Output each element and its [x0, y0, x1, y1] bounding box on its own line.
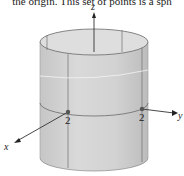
x-intercept-label: 2 [65, 114, 71, 126]
x-axis-arrow-icon [14, 138, 21, 143]
cylinder-diagram: z x y 2 2 [0, 0, 184, 176]
x-axis-label: x [3, 141, 9, 152]
z-axis-label: z [90, 1, 95, 12]
y-axis-label: y [177, 110, 183, 121]
y-intercept-label: 2 [139, 111, 145, 123]
z-axis-arrow-icon [92, 12, 96, 18]
cylinder-body [40, 42, 148, 171]
